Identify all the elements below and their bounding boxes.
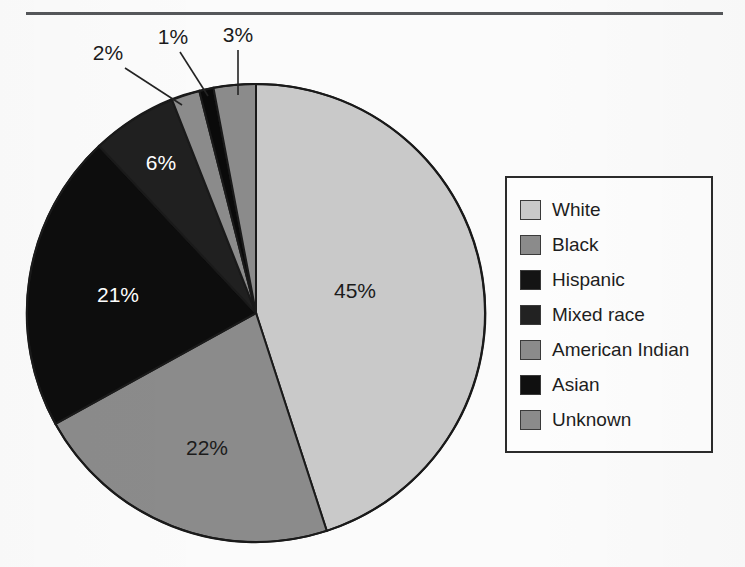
legend-swatch-american-indian-icon: [520, 340, 541, 360]
legend-item-white[interactable]: White: [520, 192, 699, 227]
pie-label-black: 22%: [186, 436, 228, 459]
legend-swatch-unknown-icon: [520, 410, 541, 430]
pie-chart-figure: 45% 22% 21% 6% 2% 1% 3% White Black Hisp…: [0, 0, 745, 567]
legend-swatch-hispanic-icon: [520, 270, 541, 290]
leader-line-asian: [180, 52, 208, 96]
pie-label-hispanic: 21%: [97, 283, 139, 306]
pie-label-asian: 1%: [158, 25, 188, 48]
legend-label-unknown: Unknown: [552, 410, 631, 429]
pie-label-unknown: 3%: [223, 23, 253, 46]
legend-swatch-mixed-race-icon: [520, 305, 541, 325]
legend-swatch-asian-icon: [520, 375, 541, 395]
leader-line-american-indian: [125, 68, 182, 105]
legend-swatch-black-icon: [520, 235, 541, 255]
pie-slices: [27, 84, 486, 542]
legend-item-black[interactable]: Black: [520, 227, 699, 262]
legend-label-asian: Asian: [552, 375, 600, 394]
legend-item-mixed-race[interactable]: Mixed race: [520, 297, 699, 332]
legend-item-unknown[interactable]: Unknown: [520, 402, 699, 437]
legend-label-mixed-race: Mixed race: [552, 305, 645, 324]
legend-item-asian[interactable]: Asian: [520, 367, 699, 402]
legend-swatch-white-icon: [520, 200, 541, 220]
legend-label-american-indian: American Indian: [552, 340, 689, 359]
chart-legend: White Black Hispanic Mixed race American…: [505, 176, 713, 453]
legend-item-hispanic[interactable]: Hispanic: [520, 262, 699, 297]
pie-label-white: 45%: [334, 279, 376, 302]
legend-label-black: Black: [552, 235, 598, 254]
pie-label-mixed-race: 6%: [146, 151, 176, 174]
legend-label-hispanic: Hispanic: [552, 270, 625, 289]
legend-label-white: White: [552, 200, 601, 219]
legend-item-american-indian[interactable]: American Indian: [520, 332, 699, 367]
pie-label-american-indian: 2%: [93, 41, 123, 64]
